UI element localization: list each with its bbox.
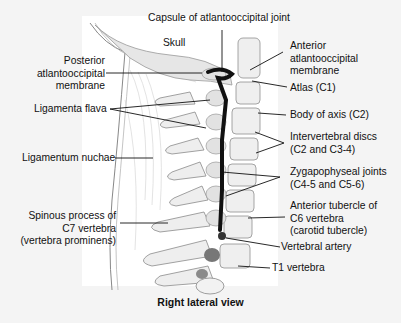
label-line: membrane: [290, 65, 358, 78]
label-capsule-atlantooccipital-joint: Capsule of atlantooccipital joint: [148, 12, 290, 25]
label-line: Anterior: [290, 40, 358, 53]
label-skull: Skull: [163, 37, 185, 50]
label-line: C7 vertebra: [10, 223, 116, 236]
label-ligamentum-nuchae: Ligamentum nuchae: [22, 152, 115, 165]
label-line: (C2 and C3-4): [290, 144, 377, 157]
anatomy-figure: Capsule of atlantooccipital joint Skull …: [0, 0, 401, 323]
label-atlas-c1: Atlas (C1): [290, 82, 336, 95]
label-vertebral-artery: Vertebral artery: [281, 241, 351, 254]
label-line: atlantooccipital: [20, 68, 105, 81]
label-line: Spinous process of: [10, 210, 116, 223]
label-intervertebral-discs: Intervertebral discs (C2 and C3-4): [290, 131, 377, 156]
label-line: Anterior tubercle of: [290, 200, 377, 213]
label-spinous-process-c7: Spinous process of C7 vertebra (vertebra…: [10, 210, 116, 248]
label-line: Zygapophyseal joints: [290, 166, 387, 179]
label-line: atlantooccipital: [290, 53, 358, 66]
label-body-of-axis-c2: Body of axis (C2): [290, 109, 369, 122]
label-line: Posterior: [20, 55, 105, 68]
label-line: (carotid tubercle): [290, 225, 377, 238]
label-ligamenta-flava: Ligamenta flava: [34, 103, 107, 116]
label-line: Intervertebral discs: [290, 131, 377, 144]
label-line: C6 vertebra: [290, 213, 377, 226]
label-t1-vertebra: T1 vertebra: [272, 262, 325, 275]
label-line: membrane: [20, 80, 105, 93]
label-line: (vertebra prominens): [10, 235, 116, 248]
label-line: (C4-5 and C5-6): [290, 179, 387, 192]
label-anterior-tubercle-c6: Anterior tubercle of C6 vertebra (caroti…: [290, 200, 377, 238]
label-zygapophyseal-joints: Zygapophyseal joints (C4-5 and C5-6): [290, 166, 387, 191]
label-anterior-atlantooccipital-membrane: Anterior atlantooccipital membrane: [290, 40, 358, 78]
figure-caption: Right lateral view: [0, 296, 401, 308]
label-posterior-atlantooccipital-membrane: Posterior atlantooccipital membrane: [20, 55, 105, 93]
